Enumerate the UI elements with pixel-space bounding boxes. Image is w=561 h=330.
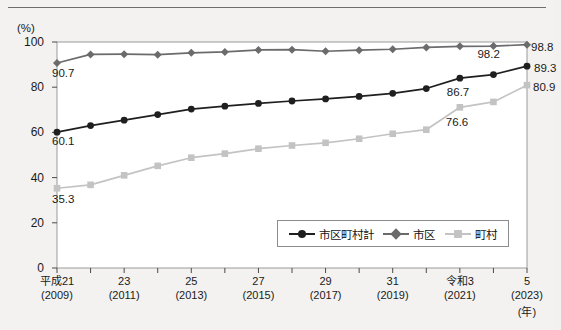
series-marker-town [457, 104, 464, 111]
series-marker-town [188, 154, 195, 161]
y-axis-tick-label: 40 [14, 171, 44, 185]
series-marker-town [255, 145, 262, 152]
y-axis-tick-label: 60 [14, 125, 44, 139]
series-marker-total [356, 93, 363, 100]
legend-swatch-diamond-icon [383, 228, 409, 239]
series-marker-total [221, 103, 228, 110]
series-marker-town [389, 130, 396, 137]
series-marker-town [490, 99, 497, 106]
legend-swatch-square-icon [445, 228, 471, 239]
series-marker-town [289, 142, 296, 149]
series-marker-total [188, 106, 195, 113]
series-marker-total [456, 75, 463, 82]
data-value-label-total: 89.3 [534, 62, 556, 74]
data-value-label-city: 98.8 [531, 41, 553, 53]
legend-swatch-circle-icon [289, 228, 315, 239]
series-marker-total [255, 100, 262, 107]
data-value-label-city: 98.2 [477, 48, 499, 60]
series-marker-total [423, 85, 430, 92]
legend-label: 町村 [475, 226, 497, 242]
legend-label: 市区町村計 [319, 226, 374, 242]
series-marker-total [87, 122, 94, 129]
series-marker-town [121, 172, 128, 179]
y-axis-tick-label: 0 [14, 261, 44, 275]
series-marker-town [54, 185, 61, 192]
series-marker-total [322, 96, 329, 103]
series-marker-town [322, 139, 329, 146]
data-value-label-city: 90.7 [52, 67, 74, 79]
series-marker-total [289, 98, 296, 105]
series-marker-town [524, 82, 531, 89]
series-marker-town [222, 150, 229, 157]
legend-label: 市区 [413, 226, 435, 242]
data-value-label-total: 60.1 [52, 135, 74, 147]
data-value-label-total: 86.7 [447, 86, 469, 98]
series-marker-total [389, 90, 396, 97]
series-marker-total [524, 63, 531, 70]
data-value-label-town: 80.9 [533, 81, 555, 93]
series-marker-town [87, 182, 94, 189]
data-value-label-town: 76.6 [446, 116, 468, 128]
y-axis-tick-label: 80 [14, 80, 44, 94]
x-axis-unit-label: (年) [507, 303, 547, 319]
legend-item-1[interactable]: 市区 [383, 226, 435, 242]
series-marker-total [490, 71, 497, 78]
legend-item-2[interactable]: 町村 [445, 226, 497, 242]
series-marker-town [423, 126, 430, 133]
series-marker-total [154, 111, 161, 118]
series-marker-town [154, 163, 161, 170]
x-axis-tick-label: 5 (2023) [487, 275, 561, 303]
data-value-label-town: 35.3 [52, 193, 74, 205]
series-marker-total [121, 117, 128, 124]
series-marker-town [356, 135, 363, 142]
chart-legend[interactable]: 市区町村計市区町村 [277, 220, 509, 247]
y-axis-tick-label: 100 [14, 35, 44, 49]
legend-item-0[interactable]: 市区町村計 [289, 226, 374, 242]
y-axis-tick-label: 20 [14, 216, 44, 230]
